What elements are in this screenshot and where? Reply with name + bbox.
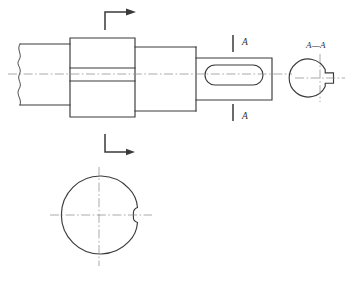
section-view-title: A—A [305,40,326,50]
view-arrow-bottom-head [126,149,135,155]
keyway-slot-outline [205,65,263,85]
section-label-top: A [241,37,248,47]
front-elevation-view [8,38,292,117]
view-arrow-top-head [126,9,136,16]
view-arrow-top-leader [105,12,126,30]
shaft-drawing-svg: A A A—A [0,0,353,281]
section-view-a-a: A—A [289,40,345,102]
left-break-line [18,44,21,105]
section-label-bottom: A [241,111,248,121]
section-cut-marks: A A [233,35,248,121]
view-direction-arrow-top [105,9,136,30]
end-circular-view [50,167,152,266]
boss-outline [70,38,135,117]
technical-drawing-canvas: A A A—A [0,0,353,281]
right-journal-outline [196,58,272,100]
view-direction-arrow-bottom [105,134,135,155]
view-arrow-bottom-leader [105,134,126,152]
